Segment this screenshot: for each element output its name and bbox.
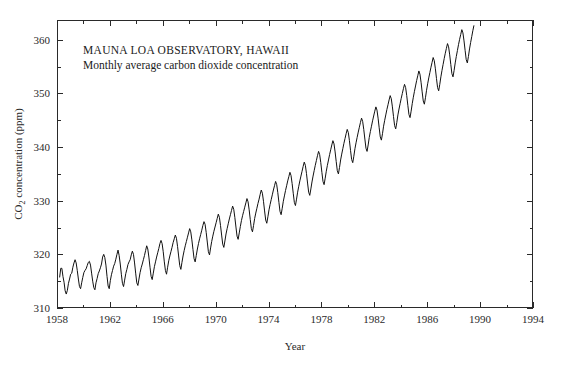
x-tick-label: 1970 — [205, 313, 228, 325]
x-tick-label: 1958 — [46, 313, 69, 325]
y-axis-label: CO2 concentration (ppm) — [12, 108, 27, 220]
y-tick-label: 310 — [34, 302, 51, 314]
co2-chart-figure: 1958196219661970197419781982198619901994… — [0, 0, 566, 367]
x-axis-label: Year — [285, 340, 306, 352]
chart-subtitle: Monthly average carbon dioxide concentra… — [83, 59, 298, 72]
y-tick-label: 320 — [34, 248, 51, 260]
y-tick-label: 330 — [34, 195, 51, 207]
chart-canvas: 1958196219661970197419781982198619901994… — [0, 0, 566, 367]
x-tick-label: 1986 — [416, 313, 439, 325]
x-tick-label: 1962 — [99, 313, 121, 325]
x-axis-tick-labels: 1958196219661970197419781982198619901994 — [46, 313, 545, 325]
svg-text:CO2 concentration (ppm): CO2 concentration (ppm) — [12, 108, 27, 220]
y-axis-label-prefix: CO — [12, 204, 24, 219]
x-tick-label: 1994 — [522, 313, 545, 325]
y-tick-label: 360 — [34, 34, 51, 46]
chart-title: MAUNA LOA OBSERVATORY, HAWAII — [83, 44, 289, 57]
x-tick-label: 1966 — [152, 313, 175, 325]
y-axis-tick-labels: 310320330340350360 — [34, 34, 51, 314]
x-tick-label: 1978 — [310, 313, 333, 325]
y-axis-label-suffix: concentration (ppm) — [12, 108, 25, 201]
x-tick-label: 1974 — [258, 313, 281, 325]
y-axis-ticks — [57, 41, 533, 309]
x-tick-label: 1982 — [363, 313, 385, 325]
y-tick-label: 340 — [34, 141, 51, 153]
x-tick-label: 1990 — [469, 313, 492, 325]
y-tick-label: 350 — [34, 87, 51, 99]
